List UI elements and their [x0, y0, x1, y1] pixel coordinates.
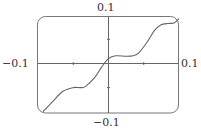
y-axis-min-label: −0.1	[93, 117, 120, 128]
plot-area	[0, 0, 201, 131]
data-curve	[43, 19, 179, 112]
y-axis-max-label: 0.1	[97, 2, 115, 13]
chart: 0.1 −0.1 −0.1 0.1	[0, 0, 201, 131]
x-axis-max-label: 0.1	[181, 58, 199, 69]
x-axis-min-label: −0.1	[2, 58, 29, 69]
